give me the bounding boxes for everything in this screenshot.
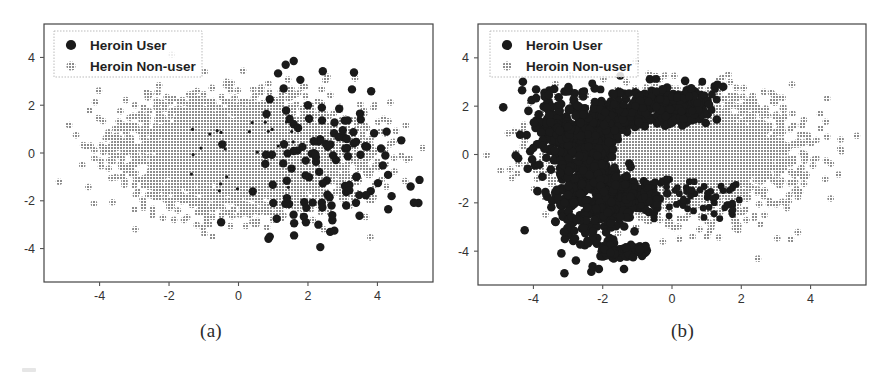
x-tick-label: -2 [163, 289, 174, 303]
plot-area-a: -4-2024-4-2024Heroin UserHeroin Non-user [0, 0, 446, 310]
legend-marker-heroin-user [66, 40, 76, 50]
x-tick-label: -4 [94, 289, 105, 303]
subcaption-b: (b) [460, 320, 891, 342]
x-tick-label: 4 [807, 292, 814, 306]
figure-scatter-pair: -4-2024-4-2024Heroin UserHeroin Non-user… [0, 0, 891, 377]
y-tick-label: 0 [462, 148, 469, 162]
x-tick-label: 4 [374, 289, 381, 303]
legend-label: Heroin Non-user [526, 59, 633, 74]
data-points-b [483, 58, 860, 278]
x-tick-label: 0 [669, 292, 676, 306]
x-tick-label: 0 [235, 289, 242, 303]
legend-a[interactable]: Heroin UserHeroin Non-user [54, 31, 202, 77]
x-tick-label: -2 [597, 292, 608, 306]
y-tick-label: 2 [462, 100, 469, 114]
y-tick-label: 0 [28, 147, 35, 161]
plot-area-b: -4-2024-4-2024Heroin UserHeroin Non-user [446, 0, 891, 310]
x-tick-label: -4 [528, 292, 539, 306]
y-tick-label: 2 [28, 99, 35, 113]
y-tick-label: 4 [28, 51, 35, 65]
y-tick-label: -4 [458, 245, 469, 259]
y-tick-label: -4 [24, 242, 35, 256]
legend-label: Heroin User [526, 38, 603, 53]
panel-b: -4-2024-4-2024Heroin UserHeroin Non-user… [446, 0, 891, 377]
scatter-plot-a: -4-2024-4-2024Heroin UserHeroin Non-user [0, 0, 446, 310]
y-tick-label: 4 [462, 51, 469, 65]
legend-marker-heroin-non-user [502, 61, 511, 70]
legend-label: Heroin User [90, 38, 167, 53]
x-tick-label: 2 [304, 289, 311, 303]
y-tick-label: -2 [24, 194, 35, 208]
legend-b[interactable]: Heroin UserHeroin Non-user [490, 31, 638, 77]
y-tick-label: -2 [458, 196, 469, 210]
legend-marker-heroin-user [502, 40, 512, 50]
x-tick-label: 2 [738, 292, 745, 306]
legend-label: Heroin Non-user [90, 59, 197, 74]
legend-marker-heroin-non-user [66, 61, 75, 70]
data-points-a [56, 51, 426, 251]
panel-a: -4-2024-4-2024Heroin UserHeroin Non-user… [0, 0, 446, 377]
subcaption-a: (a) [0, 320, 434, 342]
page-artifact-smudge [22, 368, 36, 372]
scatter-plot-b: -4-2024-4-2024Heroin UserHeroin Non-user [446, 0, 891, 310]
